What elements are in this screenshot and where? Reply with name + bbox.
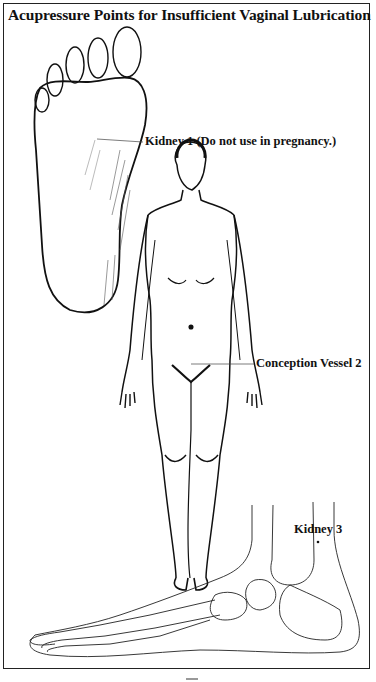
kidney-3-point-marker xyxy=(317,541,320,544)
kidney-1-label: Kidney 1 (Do not use in pregnancy.) xyxy=(145,134,336,149)
kidney-1-leader-line xyxy=(97,139,143,142)
conception-vessel-2-label: Conception Vessel 2 xyxy=(256,356,362,371)
female-body-figure xyxy=(120,140,262,590)
kidney-3-label: Kidney 3 xyxy=(294,522,342,537)
page-number-clipped xyxy=(186,678,198,680)
illustration xyxy=(0,0,376,682)
foot-sole-figure xyxy=(34,27,146,312)
